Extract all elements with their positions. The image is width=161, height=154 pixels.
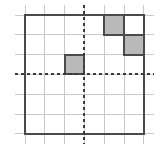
grid-figure bbox=[0, 0, 161, 154]
shaded-cell-r1c5 bbox=[104, 15, 124, 35]
grid-figure-svg bbox=[0, 0, 161, 154]
shaded-cell-r2c6 bbox=[124, 35, 144, 55]
shaded-cell-r3c3 bbox=[65, 55, 85, 75]
